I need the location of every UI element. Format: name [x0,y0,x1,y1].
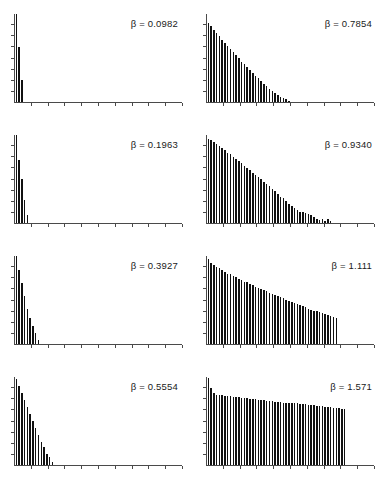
x-axis-tick [374,466,375,469]
bar [260,289,262,344]
y-axis-tick [203,58,206,59]
bar [297,304,299,344]
bar [255,399,257,465]
bar [316,219,318,223]
y-axis-tick [203,409,206,410]
x-axis-tick [81,345,82,348]
bar [221,40,223,102]
bar [324,407,326,465]
y-axis-tick [203,266,206,267]
x-axis-tick [223,345,224,348]
x-axis-tick [340,103,341,106]
y-axis-tick [203,145,206,146]
bar [258,400,260,465]
x-axis-tick [223,103,224,106]
bar [52,462,54,465]
bar [313,311,315,344]
bar [244,282,246,344]
bar [280,402,282,465]
bar [269,89,271,102]
y-axis-tick [11,288,14,289]
bar [263,400,265,465]
bar [230,154,232,223]
chart-panel-5: β = 1.111 [192,242,384,363]
bar [235,55,237,102]
bar [266,184,268,223]
bar [291,302,293,344]
bar [333,408,335,465]
beta-annotation: β = 0.7854 [325,18,372,29]
x-axis-tick [273,466,274,469]
bar [235,397,237,465]
x-axis-tick [148,345,149,348]
bar [288,101,290,102]
bar [308,405,310,465]
x-axis-tick [165,103,166,106]
bar [246,282,248,344]
multi-panel-figure: β = 0.0982β = 0.7854β = 0.1963β = 0.9340… [0,0,384,484]
y-axis-tick [11,145,14,146]
bar [38,340,40,344]
x-axis-tick [273,224,274,227]
x-axis-tick [240,103,241,106]
bar [341,409,343,465]
bar [302,404,304,465]
bar [277,296,279,344]
bar [227,46,229,102]
bar [280,297,282,344]
bar [255,287,257,344]
bar [274,295,276,344]
x-axis-tick [340,224,341,227]
bar [260,400,262,465]
x-axis-tick [81,224,82,227]
bar [297,403,299,465]
bar [305,404,307,465]
beta-annotation: β = 0.9340 [325,139,372,150]
bar [277,194,279,223]
bar [260,81,262,102]
x-axis-tick [64,345,65,348]
x-axis-tick [290,345,291,348]
bar [305,213,307,223]
x-axis-tick [98,466,99,469]
x-axis-tick [256,224,257,227]
x-axis-tick [182,466,183,469]
bar [29,318,31,344]
bar [252,73,254,102]
x-axis-tick [307,103,308,106]
x-axis-tick [324,345,325,348]
y-axis-tick [203,421,206,422]
bar [32,421,34,465]
bar [249,399,251,465]
bar [294,208,296,223]
y-axis-tick [203,443,206,444]
beta-annotation: β = 0.3927 [131,260,178,271]
bar [244,398,246,465]
bar [213,30,215,102]
x-axis-tick [240,466,241,469]
y-axis-tick [203,454,206,455]
x-axis-tick [357,466,358,469]
bar [322,313,324,344]
y-axis-tick [11,443,14,444]
bar [344,409,346,465]
x-axis-tick [115,345,116,348]
y-axis-tick [203,80,206,81]
bar [291,206,293,223]
x-axis-tick [290,466,291,469]
y-axis-tick [203,387,206,388]
x-axis-tick [98,345,99,348]
y-axis-tick [203,179,206,180]
y-axis-tick [11,91,14,92]
y-axis-tick [11,333,14,334]
bar [324,314,326,344]
bar [252,285,254,344]
bar [336,408,338,465]
x-axis-tick [165,224,166,227]
bar [219,268,221,344]
bar [230,49,232,102]
bar [277,95,279,102]
x-axis-tick [290,224,291,227]
bar [27,309,29,344]
x-axis-tick [31,103,32,106]
